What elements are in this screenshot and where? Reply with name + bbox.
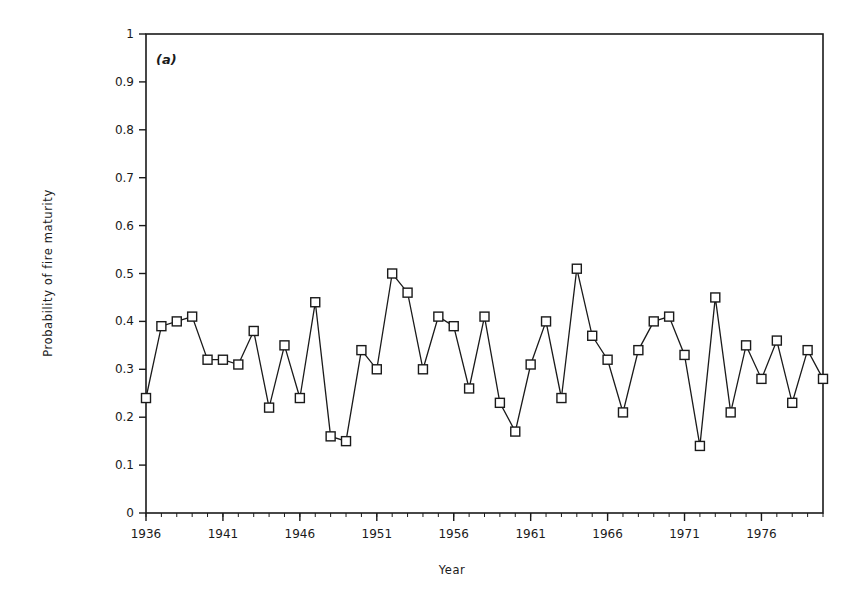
x-tick-label: 1971 xyxy=(669,527,700,541)
line-chart: 00.10.20.30.40.50.60.70.80.91 1936194119… xyxy=(0,0,865,605)
data-point-marker xyxy=(295,394,304,403)
data-point-marker xyxy=(311,298,320,307)
data-point-marker xyxy=(449,322,458,331)
x-tick-label: 1936 xyxy=(131,527,162,541)
y-tick-label: 0.1 xyxy=(115,458,134,472)
x-tick-label: 1956 xyxy=(438,527,469,541)
data-point-marker xyxy=(465,384,474,393)
y-tick-label: 0.7 xyxy=(115,171,134,185)
data-point-marker xyxy=(511,427,520,436)
data-point-marker xyxy=(234,360,243,369)
data-point-marker xyxy=(557,394,566,403)
data-point-marker xyxy=(188,312,197,321)
data-point-marker xyxy=(142,394,151,403)
data-point-marker xyxy=(680,350,689,359)
data-point-marker xyxy=(172,317,181,326)
data-point-marker xyxy=(418,365,427,374)
data-point-marker xyxy=(772,336,781,345)
data-point-marker xyxy=(665,312,674,321)
x-tick-label: 1941 xyxy=(208,527,239,541)
x-tick-label: 1946 xyxy=(285,527,316,541)
data-point-marker xyxy=(265,403,274,412)
data-point-marker xyxy=(588,331,597,340)
plot-frame xyxy=(146,34,823,513)
x-tick-label: 1976 xyxy=(746,527,777,541)
data-point-marker xyxy=(203,355,212,364)
data-point-marker xyxy=(603,355,612,364)
data-point-marker xyxy=(326,432,335,441)
y-tick-label: 0.4 xyxy=(115,314,134,328)
y-tick-label: 0.3 xyxy=(115,362,134,376)
data-point-marker xyxy=(757,374,766,383)
data-series xyxy=(142,264,828,450)
data-point-marker xyxy=(342,437,351,446)
data-point-marker xyxy=(357,346,366,355)
data-point-marker xyxy=(742,341,751,350)
panel-label: (a) xyxy=(156,52,177,67)
y-tick-label: 0.8 xyxy=(115,123,134,137)
plot-area xyxy=(146,34,823,513)
data-point-marker xyxy=(157,322,166,331)
y-tick-label: 0 xyxy=(126,506,134,520)
y-tick-label: 0.2 xyxy=(115,410,134,424)
data-point-marker xyxy=(542,317,551,326)
data-point-marker xyxy=(618,408,627,417)
data-point-marker xyxy=(249,326,258,335)
x-axis: 193619411946195119561961196619711976 xyxy=(131,513,823,541)
data-point-marker xyxy=(403,288,412,297)
data-point-marker xyxy=(280,341,289,350)
data-point-marker xyxy=(218,355,227,364)
data-point-marker xyxy=(480,312,489,321)
y-axis-title: Probability of fire maturity xyxy=(41,189,55,357)
data-point-marker xyxy=(526,360,535,369)
data-point-marker xyxy=(803,346,812,355)
data-point-marker xyxy=(634,346,643,355)
data-point-marker xyxy=(695,441,704,450)
y-tick-label: 0.9 xyxy=(115,75,134,89)
data-point-marker xyxy=(434,312,443,321)
y-axis: 00.10.20.30.40.50.60.70.80.91 xyxy=(115,27,146,520)
data-point-marker xyxy=(495,398,504,407)
data-point-marker xyxy=(726,408,735,417)
y-tick-label: 0.6 xyxy=(115,219,134,233)
y-tick-label: 1 xyxy=(126,27,134,41)
x-axis-title: Year xyxy=(438,563,466,577)
y-tick-label: 0.5 xyxy=(115,267,134,281)
data-point-marker xyxy=(388,269,397,278)
data-point-marker xyxy=(788,398,797,407)
x-tick-label: 1966 xyxy=(592,527,623,541)
data-point-marker xyxy=(819,374,828,383)
data-point-marker xyxy=(572,264,581,273)
data-point-marker xyxy=(372,365,381,374)
data-point-marker xyxy=(649,317,658,326)
series-line xyxy=(146,269,823,446)
data-point-marker xyxy=(711,293,720,302)
x-tick-label: 1961 xyxy=(515,527,546,541)
x-tick-label: 1951 xyxy=(362,527,393,541)
